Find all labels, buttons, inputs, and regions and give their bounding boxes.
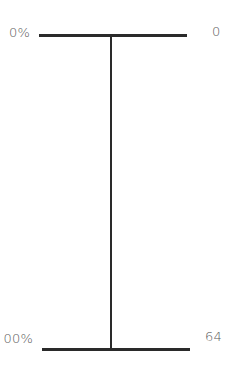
top-horizontal-bar xyxy=(39,34,187,37)
top-value-label: 0 xyxy=(212,24,220,40)
bottom-percent-label: 00% xyxy=(0,331,33,347)
vertical-stem xyxy=(110,35,112,349)
bottom-horizontal-bar xyxy=(42,348,190,351)
bottom-value-label: 64 xyxy=(205,329,222,345)
top-percent-label: 0% xyxy=(0,25,30,41)
